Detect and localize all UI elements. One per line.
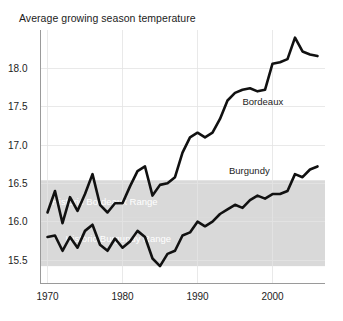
y-tick-label: 16.0 bbox=[8, 216, 28, 227]
x-tick-label: 1970 bbox=[36, 291, 59, 302]
series-label-burgundy: Burgundy bbox=[229, 165, 270, 176]
y-tick-label: 17.5 bbox=[8, 101, 28, 112]
y-tick-label: 18.0 bbox=[8, 63, 28, 74]
x-tick-label: 1990 bbox=[186, 291, 209, 302]
x-tick-label: 1980 bbox=[111, 291, 134, 302]
chart-plot-area: Historic Bordeaux RangeHistoric Burgundy… bbox=[0, 0, 343, 321]
y-tick-label: 16.5 bbox=[8, 178, 28, 189]
series-label-bordeaux: Bordeaux bbox=[243, 96, 284, 107]
chart-container: Average growing season temperature Histo… bbox=[0, 0, 343, 321]
y-axis-tick-labels: 15.516.016.517.017.518.0 bbox=[8, 63, 28, 266]
x-axis-tick-labels: 1970198019902000 bbox=[36, 291, 284, 302]
y-tick-label: 17.0 bbox=[8, 140, 28, 151]
x-tick-label: 2000 bbox=[261, 291, 284, 302]
y-tick-label: 15.5 bbox=[8, 255, 28, 266]
series-labels: BordeauxBurgundy bbox=[229, 96, 283, 176]
